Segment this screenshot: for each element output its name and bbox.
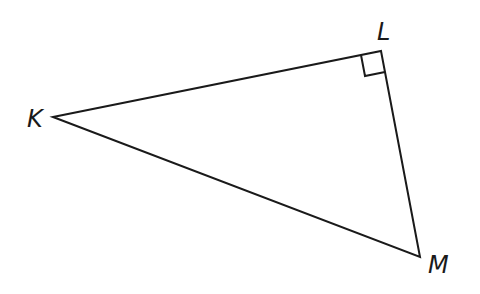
triangle-klm (53, 51, 420, 257)
triangle-diagram: K L M (0, 0, 480, 294)
vertex-label-m: M (428, 251, 449, 279)
vertex-label-k: K (27, 105, 45, 133)
vertex-label-l: L (377, 18, 390, 46)
